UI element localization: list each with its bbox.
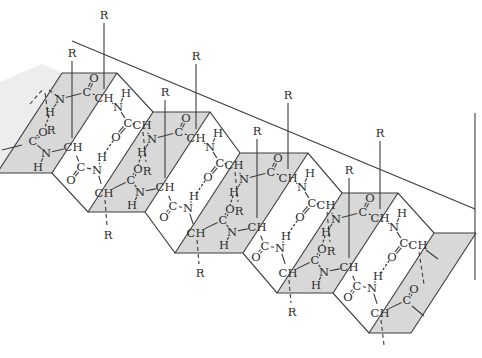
beta-pleated-sheet-figure: RRRRRRRRRRRRRRNHCOCHNHCOCHNHCOCHNHCOCHNH… (0, 0, 482, 358)
atom-label-C: C (124, 116, 133, 130)
r-group-label: R (327, 244, 336, 258)
covalent-bond (374, 294, 377, 304)
atom-label-H: H (213, 126, 223, 140)
atom-label-N: N (41, 146, 51, 160)
atom-label-O: O (133, 162, 142, 176)
atom-label-N: N (319, 265, 329, 279)
atom-label-H: H (127, 198, 137, 212)
covalent-bond (190, 214, 193, 224)
atom-label-N: N (239, 172, 249, 186)
r-group-label: R (104, 228, 113, 242)
atom-label-CH: CH (64, 140, 83, 154)
atom-label-C: C (400, 236, 409, 250)
atom-label-CH: CH (95, 186, 114, 200)
covalent-bond (282, 254, 285, 264)
atom-label-H: H (97, 150, 107, 164)
atom-label-CH: CH (371, 211, 390, 225)
atom-label-CH: CH (225, 158, 244, 172)
atom-label-CH: CH (279, 171, 298, 185)
atom-label-H: H (321, 225, 331, 239)
atom-label-N: N (297, 180, 307, 194)
atom-label-H: H (219, 238, 229, 252)
r-group-label: R (100, 8, 109, 22)
atom-label-H: H (33, 160, 43, 174)
atom-label-N: N (92, 163, 102, 177)
atom-label-C: C (308, 196, 317, 210)
r-group-label: R (143, 164, 152, 178)
atom-label-CH: CH (409, 238, 428, 252)
atom-label-O: O (409, 282, 418, 296)
atom-label-H: H (189, 189, 199, 203)
atom-label-N: N (227, 225, 237, 239)
r-group-label: R (196, 266, 205, 280)
atom-label-O: O (203, 170, 212, 184)
atom-label-O: O (251, 250, 260, 264)
r-group-label: R (235, 204, 244, 218)
atom-label-O: O (89, 71, 98, 85)
atom-label-O: O (365, 191, 374, 205)
atom-label-CH: CH (371, 306, 390, 320)
atom-label-N: N (389, 220, 399, 234)
r-group-label: R (68, 46, 77, 60)
atom-label-N: N (331, 212, 341, 226)
atom-label-CH: CH (187, 131, 206, 145)
atom-label-N: N (183, 201, 193, 215)
atom-label-H: H (121, 86, 131, 100)
r-group-label: R (376, 126, 385, 140)
atom-label-H: H (397, 206, 407, 220)
atom-label-C: C (359, 205, 368, 219)
atom-label-C: C (175, 125, 184, 139)
r-group-label: R (192, 49, 201, 63)
atom-label-N: N (135, 185, 145, 199)
atom-label-C: C (353, 279, 362, 293)
atom-label-H: H (229, 185, 239, 199)
atom-label-H: H (373, 269, 383, 283)
beta-pleated-sheet-diagram: RRRRRRRRRRRRRRNHCOCHNHCOCHNHCOCHNHCOCHNH… (0, 0, 482, 358)
r-group-label: R (161, 85, 170, 99)
atom-label-O: O (343, 290, 352, 304)
atom-label-H: H (137, 145, 147, 159)
atom-label-H: H (45, 105, 55, 119)
atom-label-O: O (181, 111, 190, 125)
atom-label-C: C (29, 134, 38, 148)
r-group-label: R (284, 88, 293, 102)
covalent-bond (87, 168, 91, 169)
atom-label-N: N (55, 92, 65, 106)
atom-label-CH: CH (156, 180, 175, 194)
r-group-label: R (288, 305, 297, 319)
r-group-label: R (253, 124, 262, 138)
atom-label-O: O (66, 173, 75, 187)
r-group-label: R (345, 163, 354, 177)
atom-label-O: O (159, 210, 168, 224)
atom-label-O: O (387, 250, 396, 264)
atom-label-H: H (311, 278, 321, 292)
atom-label-C: C (216, 156, 225, 170)
atom-label-N: N (147, 132, 157, 146)
atom-label-O: O (111, 130, 120, 144)
atom-label-O: O (317, 242, 326, 256)
atom-label-C: C (261, 239, 270, 253)
atom-label-N: N (275, 241, 285, 255)
atom-label-N: N (205, 140, 215, 154)
atom-label-CH: CH (133, 118, 152, 132)
atom-label-O: O (295, 210, 304, 224)
atom-label-CH: CH (95, 91, 114, 105)
atom-label-C: C (77, 160, 86, 174)
atom-label-N: N (367, 281, 377, 295)
atom-label-CH: CH (340, 260, 359, 274)
atom-label-CH: CH (317, 198, 336, 212)
atom-label-CH: CH (279, 266, 298, 280)
atom-label-CH: CH (248, 220, 267, 234)
atom-label-O: O (225, 202, 234, 216)
atom-label-N: N (113, 100, 123, 114)
atom-label-H: H (305, 166, 315, 180)
atom-label-C: C (83, 85, 92, 99)
atom-label-H: H (281, 229, 291, 243)
atom-label-C: C (169, 199, 178, 213)
atom-label-C: C (267, 165, 276, 179)
atom-label-CH: CH (187, 226, 206, 240)
atom-label-O: O (273, 151, 282, 165)
atom-label-R: R (47, 123, 56, 137)
